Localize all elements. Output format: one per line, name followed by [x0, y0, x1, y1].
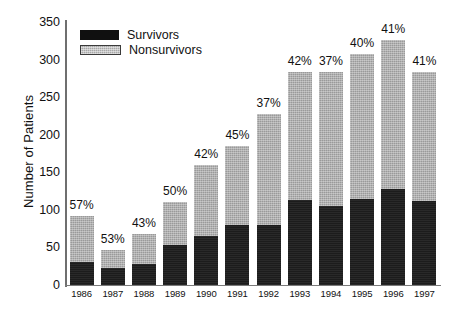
bar-percent-label: 42% [194, 147, 218, 161]
bar-segment-nonsurvivors[interactable] [225, 146, 249, 225]
bar-segment-survivors[interactable] [70, 262, 94, 285]
bar-percent-label: 42% [288, 54, 312, 68]
bar-group[interactable]: 50% [163, 202, 187, 285]
bar-segment-nonsurvivors[interactable] [288, 72, 312, 200]
bar-segment-nonsurvivors[interactable] [70, 216, 94, 262]
bar-segment-nonsurvivors[interactable] [412, 72, 436, 200]
bar-group[interactable]: 53% [101, 250, 125, 285]
bar-segment-survivors[interactable] [132, 264, 156, 285]
bar-segment-survivors[interactable] [163, 245, 187, 285]
y-axis-tick: 0 [53, 278, 60, 292]
bar-percent-label: 40% [350, 36, 374, 50]
plot-area: 05010015020025030035057%53%43%50%42%45%3… [66, 22, 440, 285]
y-axis-title: Number of Patients [21, 62, 36, 242]
bar-group[interactable]: 45% [225, 146, 249, 285]
bar-group[interactable]: 57% [70, 216, 94, 285]
bar-group[interactable]: 40% [350, 54, 374, 285]
bar-group[interactable]: 37% [257, 114, 281, 285]
x-axis-line [65, 285, 441, 286]
bar-group[interactable]: 42% [288, 72, 312, 285]
bar-group[interactable]: 41% [381, 40, 405, 285]
y-axis-tick: 50 [46, 240, 60, 254]
bar-percent-label: 37% [319, 54, 343, 68]
bar-segment-nonsurvivors[interactable] [163, 202, 187, 246]
bar-percent-label: 43% [132, 216, 156, 230]
bar-segment-survivors[interactable] [319, 206, 343, 285]
bar-segment-survivors[interactable] [381, 189, 405, 285]
bar-group[interactable]: 37% [319, 72, 343, 285]
y-axis-tick: 100 [39, 203, 60, 217]
bar-segment-survivors[interactable] [194, 236, 218, 285]
bar-percent-label: 41% [412, 54, 436, 68]
bar-segment-survivors[interactable] [257, 225, 281, 285]
bar-percent-label: 53% [101, 232, 125, 246]
y-axis-tick: 150 [39, 165, 60, 179]
bar-segment-survivors[interactable] [350, 199, 374, 285]
bar-segment-nonsurvivors[interactable] [101, 250, 125, 268]
bar-segment-survivors[interactable] [412, 201, 436, 285]
bar-percent-label: 50% [163, 184, 187, 198]
y-axis-tick: 200 [39, 128, 60, 142]
bar-group[interactable]: 41% [412, 72, 436, 285]
bar-segment-nonsurvivors[interactable] [132, 234, 156, 264]
bar-segment-nonsurvivors[interactable] [381, 40, 405, 189]
bar-segment-nonsurvivors[interactable] [319, 72, 343, 206]
y-axis-tick: 250 [39, 90, 60, 104]
bar-segment-survivors[interactable] [288, 200, 312, 285]
bar-percent-label: 57% [70, 198, 94, 212]
bar-segment-nonsurvivors[interactable] [350, 54, 374, 199]
y-axis-tick: 350 [39, 15, 60, 29]
bar-segment-nonsurvivors[interactable] [257, 114, 281, 225]
y-axis-tick: 300 [39, 53, 60, 67]
bar-percent-label: 37% [257, 96, 281, 110]
bar-percent-label: 41% [381, 22, 405, 36]
bar-segment-nonsurvivors[interactable] [194, 165, 218, 236]
bar-segment-survivors[interactable] [101, 268, 125, 285]
bar-group[interactable]: 43% [132, 234, 156, 285]
bar-chart: Number of Patients Survivors Nonsurvivor… [0, 0, 453, 324]
x-axis-tick: 1997 [404, 288, 444, 299]
bar-percent-label: 45% [225, 128, 249, 142]
bar-group[interactable]: 42% [194, 165, 218, 285]
bar-segment-survivors[interactable] [225, 225, 249, 285]
